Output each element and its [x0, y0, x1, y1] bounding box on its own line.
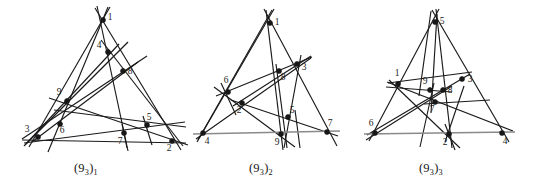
caption-paren-close: ) [264, 161, 268, 175]
configuration-point-5 [433, 20, 438, 25]
point-label-3: 3 [468, 74, 473, 84]
point-label-2: 2 [443, 137, 448, 147]
configuration-point-9 [428, 88, 433, 93]
caption-subscript-order: 3 [260, 168, 264, 177]
configuration-point-3 [460, 77, 465, 82]
configuration-point-6 [373, 131, 378, 136]
caption-subscript-order: 3 [430, 168, 434, 177]
point-label-1: 1 [395, 68, 400, 78]
configuration-line-line-3-7-6 [367, 74, 470, 135]
caption-subscript-index: 3 [439, 168, 443, 177]
configuration-line-line-3-9-1 [388, 72, 472, 83]
point-label-4: 4 [503, 136, 508, 146]
caption-93-1: (93)1 [74, 161, 98, 176]
caption-subscript-index: 2 [269, 168, 273, 177]
caption-prefix: (9 [249, 161, 260, 175]
configuration-point-2 [447, 132, 452, 137]
caption-paren-close: ) [434, 161, 438, 175]
point-label-6: 6 [369, 118, 374, 128]
point-label-8: 8 [448, 85, 453, 95]
point-label-9: 9 [423, 76, 428, 86]
caption-93-3: (93)3 [419, 161, 443, 176]
configuration-line-line-6-2-4 [364, 132, 515, 134]
configuration-point-1 [396, 82, 401, 87]
configuration-line-line-8-7-6 [366, 86, 452, 140]
configuration-point-8 [441, 88, 446, 93]
caption-paren-close: ) [89, 161, 93, 175]
point-label-5: 5 [440, 16, 445, 26]
caption-prefix: (9 [74, 161, 85, 175]
configuration-diagram-93-3: 531987624 [0, 0, 540, 156]
figures-panel: 148963752 138625947 531987624 (93)1 (93)… [0, 0, 540, 184]
configuration-point-4 [500, 131, 505, 136]
caption-subscript-order: 3 [85, 168, 89, 177]
configuration-line-line-5-9-7-vert [431, 14, 437, 113]
point-label-7: 7 [430, 104, 435, 114]
caption-subscript-index: 1 [94, 168, 98, 177]
caption-93-2: (93)2 [249, 161, 273, 176]
caption-prefix: (9 [419, 161, 430, 175]
